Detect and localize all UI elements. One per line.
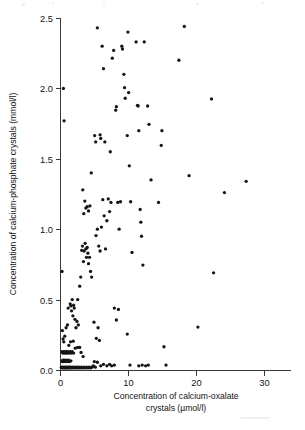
data-point (102, 67, 105, 70)
data-point (115, 105, 118, 108)
data-point (147, 123, 150, 126)
data-point (117, 228, 120, 231)
data-point (122, 73, 125, 76)
data-point (177, 59, 180, 62)
data-point (72, 304, 75, 307)
data-point (104, 247, 107, 250)
data-point (61, 337, 64, 340)
y-tick-label: 2.5 (40, 14, 53, 24)
data-point (67, 306, 70, 309)
data-point (127, 91, 130, 94)
data-point (100, 45, 103, 48)
data-point (126, 30, 129, 33)
data-point (196, 325, 199, 328)
data-point (88, 204, 91, 207)
data-point (88, 256, 91, 259)
y-axis-ticks: 0.00.51.01.52.02.5 (40, 14, 60, 376)
data-point (121, 47, 124, 50)
data-point (141, 263, 144, 266)
data-point (72, 339, 75, 342)
x-axis-ticks: 0102030 (58, 371, 270, 389)
data-point (126, 332, 129, 335)
data-point (128, 363, 131, 366)
data-point (147, 363, 150, 366)
data-point (90, 171, 93, 174)
data-point (139, 208, 142, 211)
data-point (98, 249, 101, 252)
data-point (97, 244, 100, 247)
data-point (72, 351, 75, 354)
data-point (62, 87, 65, 90)
data-point (212, 271, 215, 274)
data-point (81, 355, 84, 358)
data-point (66, 323, 69, 326)
data-point (92, 320, 95, 323)
x-axis-title-line2: crystals (µmol/l) (146, 403, 206, 413)
data-point (62, 119, 65, 122)
data-point (76, 298, 79, 301)
y-tick-label: 1.5 (40, 155, 53, 165)
data-point-layer (60, 25, 248, 370)
data-point (60, 270, 63, 273)
data-point (81, 188, 84, 191)
data-point (85, 256, 88, 259)
data-point (102, 363, 105, 366)
scatter-plot: 0.00.51.01.52.02.5 0102030 Concentration… (0, 0, 305, 430)
data-point (164, 363, 167, 366)
data-point (162, 345, 165, 348)
data-point (223, 191, 226, 194)
data-point (64, 326, 67, 329)
data-point (134, 40, 137, 43)
x-axis-title-line1: Concentration of calcium-oxalate (113, 391, 238, 401)
data-point (141, 363, 144, 366)
data-point (86, 251, 89, 254)
data-point (143, 40, 146, 43)
data-point (115, 318, 118, 321)
data-point (71, 314, 74, 317)
y-tick-label: 2.0 (40, 84, 53, 94)
data-point (101, 198, 104, 201)
data-point (94, 366, 97, 369)
data-point (75, 320, 78, 323)
data-point (89, 270, 92, 273)
data-point (103, 140, 106, 143)
x-tick-label: 10 (123, 378, 133, 388)
data-point (120, 45, 123, 48)
data-point (83, 199, 86, 202)
data-point (111, 56, 114, 59)
data-point (96, 228, 99, 231)
data-point (140, 235, 143, 238)
data-point (146, 104, 149, 107)
data-point (78, 285, 81, 288)
data-point (119, 200, 122, 203)
figure-container: 0.00.51.01.52.02.5 0102030 Concentration… (0, 0, 305, 430)
x-tick-label: 20 (191, 378, 201, 388)
data-point (82, 260, 85, 263)
data-point (70, 309, 73, 312)
data-point (113, 363, 116, 366)
data-point (79, 275, 82, 278)
data-point (137, 364, 140, 367)
y-axis-title: Concentration of calcium-phosphate cryst… (8, 93, 18, 296)
data-point (87, 209, 90, 212)
data-point (126, 134, 129, 137)
data-point (62, 340, 65, 343)
data-point (108, 210, 111, 213)
data-point (183, 25, 186, 28)
data-point (109, 150, 112, 153)
data-point (94, 140, 97, 143)
data-point (100, 225, 103, 228)
data-point (96, 26, 99, 29)
data-point (74, 326, 77, 329)
y-tick-label: 0.0 (40, 366, 53, 376)
data-point (130, 251, 133, 254)
data-point (98, 339, 101, 342)
data-point (245, 180, 248, 183)
data-point (78, 346, 81, 349)
data-point (90, 275, 93, 278)
data-point (137, 129, 140, 132)
x-tick-label: 0 (58, 378, 63, 388)
y-tick-label: 0.5 (40, 296, 53, 306)
data-point (83, 242, 86, 245)
data-point (67, 344, 70, 347)
